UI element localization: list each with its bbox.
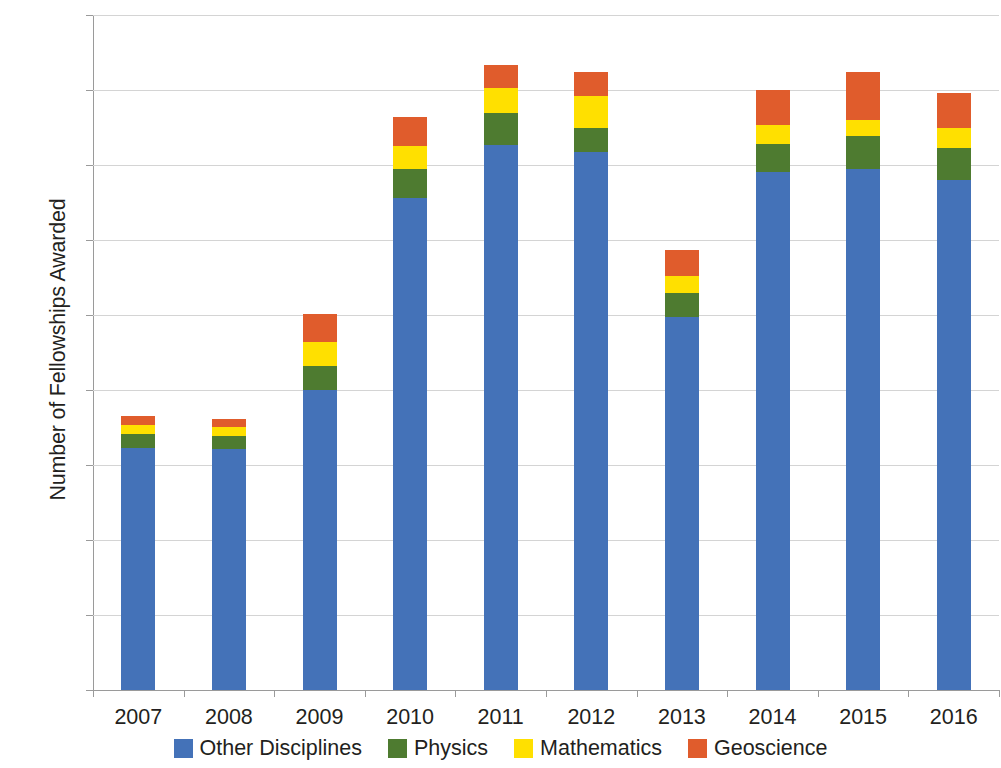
x-tick-mark-end <box>999 690 1000 697</box>
legend-item-other-disciplines[interactable]: Other Disciplines <box>174 738 363 760</box>
x-tick-mark-2 <box>274 690 275 697</box>
bar-segment-2012-geoscience[interactable] <box>574 72 608 96</box>
x-tick-mark-3 <box>365 690 366 697</box>
bar-segment-2012-mathematics[interactable] <box>574 96 608 128</box>
bar-segment-2011-geoscience[interactable] <box>484 65 518 88</box>
bar-segment-2007-mathematics[interactable] <box>121 425 155 434</box>
x-tick-mark-8 <box>818 690 819 697</box>
bar-segment-2010-other-disciplines[interactable] <box>393 198 427 690</box>
legend-swatch-geoscience <box>688 739 707 758</box>
bar-segment-2015-mathematics[interactable] <box>846 120 880 136</box>
bar-segment-2011-physics[interactable] <box>484 113 518 145</box>
bar-segment-2010-physics[interactable] <box>393 169 427 198</box>
legend-swatch-mathematics <box>514 739 533 758</box>
legend-label-physics: Physics <box>414 738 488 760</box>
bar-2014[interactable] <box>756 90 790 690</box>
bar-2010[interactable] <box>393 117 427 690</box>
legend-label-geoscience: Geoscience <box>714 738 828 760</box>
x-tick-mark-9 <box>908 690 909 697</box>
y-tick-mark-2250 <box>86 15 93 16</box>
x-tick-mark-0 <box>93 690 94 697</box>
y-tick-mark-500 <box>86 540 93 541</box>
bar-segment-2012-other-disciplines[interactable] <box>574 152 608 690</box>
bar-segment-2007-geoscience[interactable] <box>121 416 155 424</box>
bar-segment-2014-geoscience[interactable] <box>756 90 790 125</box>
bar-segment-2015-physics[interactable] <box>846 136 880 169</box>
bar-segment-2010-geoscience[interactable] <box>393 117 427 146</box>
legend-item-physics[interactable]: Physics <box>388 738 488 760</box>
x-tick-label-2016: 2016 <box>899 705 1001 730</box>
bar-2008[interactable] <box>212 419 246 690</box>
bar-segment-2014-physics[interactable] <box>756 144 790 172</box>
bar-segment-2007-other-disciplines[interactable] <box>121 448 155 690</box>
y-tick-mark-2000 <box>86 90 93 91</box>
bar-segment-2013-geoscience[interactable] <box>665 250 699 276</box>
bar-segment-2014-mathematics[interactable] <box>756 125 790 144</box>
legend-swatch-other-disciplines <box>174 739 193 758</box>
x-tick-mark-7 <box>727 690 728 697</box>
bar-segment-2013-mathematics[interactable] <box>665 276 699 293</box>
legend-label-mathematics: Mathematics <box>540 738 662 760</box>
bar-segment-2011-other-disciplines[interactable] <box>484 145 518 690</box>
y-tick-mark-250 <box>86 615 93 616</box>
bar-2013[interactable] <box>665 250 699 690</box>
bar-segment-2012-physics[interactable] <box>574 128 608 152</box>
bar-segment-2008-mathematics[interactable] <box>212 427 246 436</box>
bar-segment-2008-other-disciplines[interactable] <box>212 449 246 690</box>
bar-segment-2016-mathematics[interactable] <box>937 128 971 148</box>
y-tick-mark-750 <box>86 465 93 466</box>
y-tick-mark-0 <box>86 690 93 691</box>
x-tick-mark-6 <box>637 690 638 697</box>
bar-segment-2010-mathematics[interactable] <box>393 146 427 169</box>
bar-segment-2009-mathematics[interactable] <box>303 342 337 366</box>
chart-legend: Other DisciplinesPhysicsMathematicsGeosc… <box>0 738 1001 760</box>
bar-segment-2013-other-disciplines[interactable] <box>665 317 699 690</box>
bar-2007[interactable] <box>121 416 155 690</box>
plot-area: 2250200017501500125010007505002500 20072… <box>93 15 999 690</box>
bar-2011[interactable] <box>484 65 518 690</box>
bar-2012[interactable] <box>574 72 608 690</box>
bar-segment-2011-mathematics[interactable] <box>484 88 518 114</box>
bar-segment-2016-physics[interactable] <box>937 148 971 180</box>
bar-2016[interactable] <box>937 93 971 690</box>
gridline-2250 <box>93 15 999 16</box>
y-tick-mark-1750 <box>86 165 93 166</box>
legend-item-geoscience[interactable]: Geoscience <box>688 738 828 760</box>
bar-segment-2015-geoscience[interactable] <box>846 72 880 120</box>
legend-label-other-disciplines: Other Disciplines <box>200 738 363 760</box>
y-axis-title: Number of Fellowships Awarded <box>46 0 71 700</box>
x-tick-mark-1 <box>184 690 185 697</box>
bar-segment-2009-other-disciplines[interactable] <box>303 390 337 690</box>
x-tick-mark-5 <box>546 690 547 697</box>
bar-segment-2016-other-disciplines[interactable] <box>937 180 971 690</box>
bar-segment-2016-geoscience[interactable] <box>937 93 971 128</box>
legend-swatch-physics <box>388 739 407 758</box>
bar-2009[interactable] <box>303 314 337 691</box>
bar-segment-2007-physics[interactable] <box>121 434 155 448</box>
legend-item-mathematics[interactable]: Mathematics <box>514 738 662 760</box>
bar-segment-2008-physics[interactable] <box>212 436 246 450</box>
x-tick-mark-4 <box>455 690 456 697</box>
bar-segment-2014-other-disciplines[interactable] <box>756 172 790 690</box>
stacked-bar-chart: Number of Fellowships Awarded 2250200017… <box>0 0 1001 768</box>
bar-segment-2009-geoscience[interactable] <box>303 314 337 343</box>
y-tick-mark-1000 <box>86 390 93 391</box>
y-axis-line <box>93 15 94 690</box>
bar-segment-2015-other-disciplines[interactable] <box>846 169 880 690</box>
y-tick-mark-1250 <box>86 315 93 316</box>
bar-segment-2009-physics[interactable] <box>303 366 337 390</box>
y-tick-mark-1500 <box>86 240 93 241</box>
bar-segment-2013-physics[interactable] <box>665 293 699 317</box>
bar-2015[interactable] <box>846 72 880 690</box>
bar-segment-2008-geoscience[interactable] <box>212 419 246 427</box>
